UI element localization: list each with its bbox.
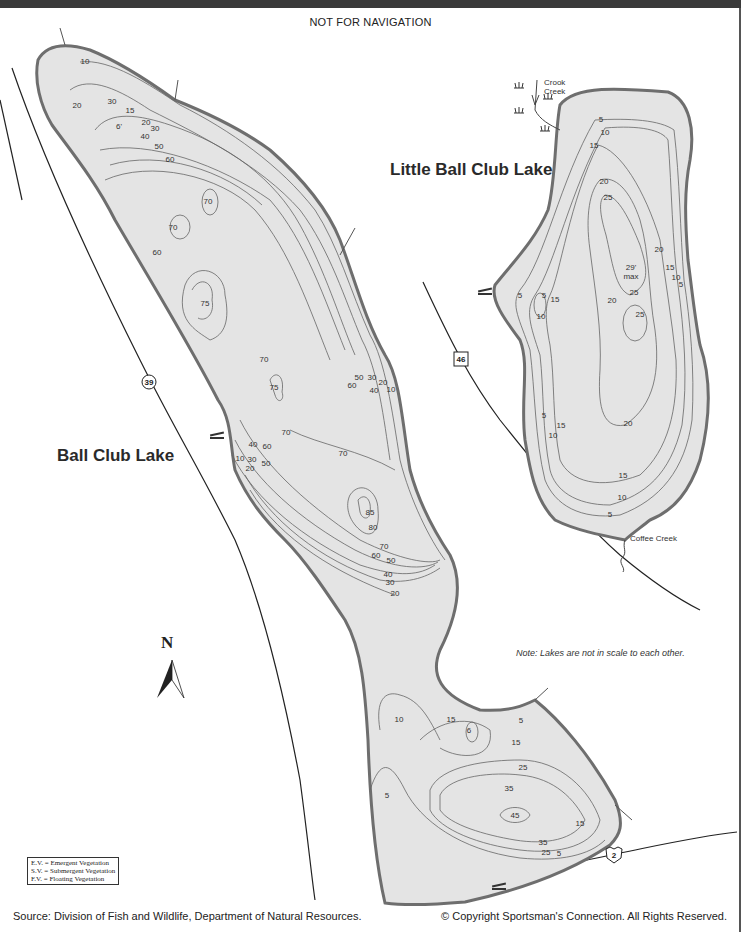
depth-label: 80 (369, 523, 378, 532)
depth-label: 10 (601, 128, 610, 137)
depth-label: 10 (81, 57, 90, 66)
depth-label: 40 (141, 132, 150, 141)
depth-label: 15 (512, 738, 521, 747)
marsh-icon (514, 82, 524, 88)
depth-label: 10 (387, 385, 396, 394)
depth-label: 75 (201, 299, 210, 308)
depth-label: 6 (467, 726, 472, 735)
depth-label: 5 (599, 115, 604, 124)
depth-label: 25 (519, 763, 528, 772)
depth-label: 10 (618, 493, 627, 502)
depth-label: 20 (391, 589, 400, 598)
depth-label: 15 (619, 471, 628, 480)
depth-label: 15 (666, 263, 675, 272)
little-ball-club-lake-shoreline (494, 89, 708, 540)
depth-label: 5 (519, 716, 524, 725)
depth-label: 30 (108, 97, 117, 106)
depth-label: 35 (539, 838, 548, 847)
little-ball-club-lake: 5101520252029'max15105551520251025515102… (494, 89, 708, 540)
depth-label: 15 (551, 295, 560, 304)
depth-label: 25 (604, 193, 613, 202)
depth-label: 15 (447, 715, 456, 724)
depth-label: 15 (126, 106, 135, 115)
depth-label: 60 (153, 248, 162, 257)
svg-text:46: 46 (457, 355, 466, 364)
depth-label: 15 (590, 141, 599, 150)
depth-label: 5 (557, 849, 562, 858)
depth-label: 70 (260, 355, 269, 364)
depth-label: 70 (282, 428, 291, 437)
depth-label: 15 (557, 421, 566, 430)
depth-label: 50 (262, 459, 271, 468)
depth-label: 30 (248, 455, 257, 464)
depth-label: 5 (679, 280, 684, 289)
depth-label: 25 (542, 848, 551, 857)
depth-label: 25 (636, 310, 645, 319)
depth-label: 50 (155, 142, 164, 151)
source-credit: Source: Division of Fish and Wildlife, D… (13, 910, 361, 922)
ball-club-lake-title: Ball Club Lake (57, 446, 174, 466)
marsh-icon (540, 125, 550, 131)
lake-map[interactable]: 102030156'203040506070706075707550302060… (0, 0, 741, 932)
depth-label: 75 (270, 383, 279, 392)
legend-item-floating: F.V. = Floating Vegetation (31, 875, 115, 883)
depth-label: max (623, 272, 638, 281)
highway-46-marker: 46 (454, 352, 468, 366)
depth-label: 5 (542, 291, 547, 300)
depth-label: 70 (169, 223, 178, 232)
depth-label: 30 (151, 124, 160, 133)
depth-label: 30 (386, 578, 395, 587)
coffee-creek-label: Coffee Creek (630, 534, 677, 543)
scale-note: Note: Lakes are not in scale to each oth… (516, 648, 685, 658)
depth-label: 70 (204, 197, 213, 206)
depth-label: 50 (387, 556, 396, 565)
depth-label: 60 (348, 381, 357, 390)
highway-39-marker: 39 (142, 375, 156, 389)
svg-text:39: 39 (145, 378, 154, 387)
depth-label: 70 (380, 542, 389, 551)
depth-label: 5 (518, 291, 523, 300)
svg-text:2: 2 (612, 851, 617, 860)
depth-label: 10 (236, 454, 245, 463)
crook-creek-label: Crook Creek (544, 78, 565, 96)
crook-creek-label-line1: Crook (544, 78, 565, 87)
depth-label: 20 (600, 177, 609, 186)
copyright-notice: © Copyright Sportsman's Connection. All … (441, 910, 727, 922)
depth-label: 5 (385, 791, 390, 800)
legend-item-submergent: S.V. = Submergent Vegetation (31, 867, 115, 875)
depth-label: 6' (116, 122, 122, 131)
legend-item-emergent: E.V. = Emergent Vegetation (31, 859, 115, 867)
marsh-icon (514, 107, 524, 113)
depth-label: 20 (608, 296, 617, 305)
depth-label: 40 (370, 386, 379, 395)
depth-label: 29' (626, 263, 637, 272)
depth-label: 60 (166, 155, 175, 164)
depth-label: 20 (655, 245, 664, 254)
depth-label: 60 (263, 442, 272, 451)
depth-label: 60 (372, 551, 381, 560)
boat-launch-icon (478, 288, 492, 295)
depth-label: 10 (395, 715, 404, 724)
depth-label: 5 (542, 411, 547, 420)
depth-label: 45 (511, 811, 520, 820)
boat-launch-icon (210, 432, 224, 439)
vegetation-legend: E.V. = Emergent Vegetation S.V. = Submer… (27, 857, 119, 885)
depth-label: 5 (608, 510, 613, 519)
depth-label: 20 (624, 419, 633, 428)
depth-label: 20 (73, 101, 82, 110)
north-arrow-icon (157, 660, 184, 698)
depth-label: 10 (549, 431, 558, 440)
highway-2-marker: 2 (606, 847, 622, 863)
depth-label: 35 (505, 784, 514, 793)
depth-label: 70 (339, 449, 348, 458)
depth-label: 10 (537, 312, 546, 321)
depth-label: 15 (576, 819, 585, 828)
depth-label: 40 (249, 440, 258, 449)
crook-creek-label-line2: Creek (544, 87, 565, 96)
compass-north-label: N (161, 633, 173, 653)
little-ball-club-lake-title: Little Ball Club Lake (390, 160, 552, 180)
depth-label: 30 (368, 373, 377, 382)
depth-label: 25 (630, 288, 639, 297)
west-shore-road (0, 100, 22, 200)
depth-label: 20 (246, 464, 255, 473)
